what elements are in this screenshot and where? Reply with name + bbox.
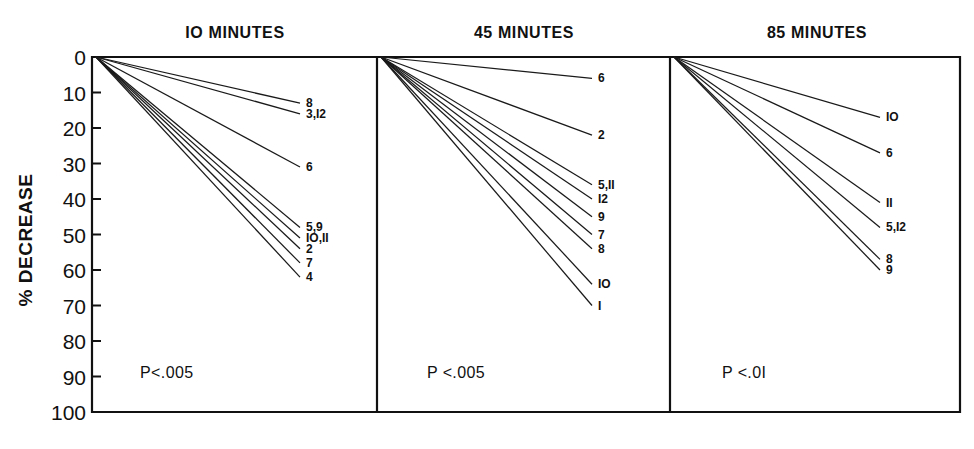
pvalue-45-minutes: P <.005 bbox=[427, 364, 485, 381]
series-line-5,9 bbox=[96, 57, 300, 227]
series-line-6 bbox=[381, 57, 592, 78]
series-label-1: I bbox=[598, 299, 601, 313]
panel-title-85-minutes: 85 MINUTES bbox=[767, 24, 867, 41]
series-label-5,12: 5,I2 bbox=[886, 220, 906, 234]
panel-titles: IO MINUTES 45 MINUTES 85 MINUTES bbox=[185, 24, 867, 41]
series-line-11 bbox=[674, 57, 880, 203]
series-line-8 bbox=[96, 57, 300, 103]
series-line-6 bbox=[96, 57, 300, 167]
panel-title-45-minutes: 45 MINUTES bbox=[474, 24, 574, 41]
y-tick-label-70: 70 bbox=[63, 295, 86, 318]
panel-series-io-minutes: 83,I265,9IO,II274 bbox=[96, 57, 329, 284]
y-tick-label-50: 50 bbox=[63, 224, 86, 247]
series-label-9: 9 bbox=[886, 263, 893, 277]
series-label-2: 2 bbox=[306, 242, 313, 256]
series-label-8: 8 bbox=[598, 242, 605, 256]
panel-series-85-minutes: IO6II5,I289 bbox=[674, 57, 906, 277]
y-tick-label-30: 30 bbox=[63, 153, 86, 176]
y-tick-label-0: 0 bbox=[74, 46, 86, 69]
series-line-10,11 bbox=[96, 57, 300, 238]
series-label-3,12: 3,I2 bbox=[306, 107, 326, 121]
series-line-5,11 bbox=[381, 57, 592, 185]
y-tick-label-40: 40 bbox=[63, 188, 86, 211]
panel-title-10-minutes: IO MINUTES bbox=[185, 24, 284, 41]
panel-series-45-minutes: 625,III2978IOI bbox=[381, 57, 615, 313]
y-tick-label-100: 100 bbox=[51, 401, 86, 424]
series-line-1 bbox=[381, 57, 592, 306]
y-tick-label-80: 80 bbox=[63, 330, 86, 353]
series-label-12: I2 bbox=[598, 192, 608, 206]
percent-decrease-figure: % DECREASE 0102030405060708090100 IO MIN… bbox=[0, 0, 974, 449]
series-line-4 bbox=[96, 57, 300, 277]
pvalue-85-minutes: P <.0I bbox=[722, 364, 766, 381]
pvalue-10-minutes: P<.005 bbox=[140, 364, 194, 381]
series-line-8 bbox=[381, 57, 592, 249]
series-label-11: II bbox=[886, 196, 893, 210]
series-label-6: 6 bbox=[598, 71, 605, 85]
pvalue-annotations: P<.005 P <.005 P <.0I bbox=[140, 364, 766, 381]
y-tick-label-60: 60 bbox=[63, 259, 86, 282]
series-label-6: 6 bbox=[306, 160, 313, 174]
series-label-10: IO bbox=[598, 277, 611, 291]
series-label-4: 4 bbox=[306, 270, 313, 284]
series-label-7: 7 bbox=[598, 228, 605, 242]
series-line-10 bbox=[381, 57, 592, 284]
series-line-9 bbox=[674, 57, 880, 270]
series-line-12 bbox=[381, 57, 592, 199]
series-line-9 bbox=[381, 57, 592, 217]
series-label-6: 6 bbox=[886, 146, 893, 160]
series-label-5,11: 5,II bbox=[598, 178, 615, 192]
y-axis-title-text: % DECREASE bbox=[15, 174, 36, 307]
y-axis-ticks: 0102030405060708090100 bbox=[51, 46, 101, 424]
series-label-2: 2 bbox=[598, 128, 605, 142]
y-axis-title: % DECREASE bbox=[15, 174, 36, 307]
series-label-9: 9 bbox=[598, 210, 605, 224]
series-label-10: IO bbox=[886, 110, 899, 124]
series-lines: 83,I265,9IO,II274625,III2978IOIIO6II5,I2… bbox=[96, 57, 906, 313]
y-tick-label-10: 10 bbox=[63, 82, 86, 105]
series-line-2 bbox=[381, 57, 592, 135]
y-tick-label-90: 90 bbox=[63, 366, 86, 389]
series-line-5,12 bbox=[674, 57, 880, 227]
series-label-7: 7 bbox=[306, 256, 313, 270]
series-line-7 bbox=[96, 57, 300, 263]
y-tick-label-20: 20 bbox=[63, 117, 86, 140]
series-line-6 bbox=[674, 57, 880, 153]
series-line-7 bbox=[381, 57, 592, 235]
